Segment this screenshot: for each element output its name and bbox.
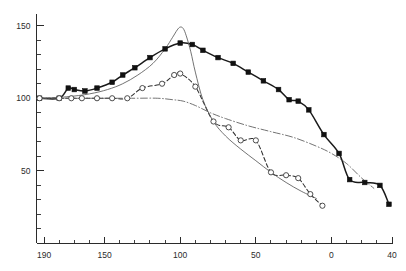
x-tick-label: 100 [173, 250, 187, 260]
data-point-filled-square [362, 180, 367, 185]
data-point-filled-square [72, 87, 77, 92]
series-line-flat-dashdot-baseline-curve [40, 98, 374, 188]
data-point-filled-square [95, 86, 100, 91]
data-point-filled-square [148, 55, 153, 60]
data-point-filled-square [216, 55, 221, 60]
data-point-open-circle [268, 170, 273, 175]
data-point-open-circle [140, 85, 145, 90]
data-point-open-circle [125, 96, 130, 101]
data-point-open-circle [253, 138, 258, 143]
data-point-filled-square [337, 151, 342, 156]
x-tick-label: 150 [97, 250, 111, 260]
data-point-filled-square [231, 61, 236, 66]
series-markers-group [37, 41, 391, 209]
data-point-filled-square [110, 80, 115, 85]
data-point-filled-square [307, 108, 312, 113]
data-point-open-circle [178, 71, 183, 76]
data-point-filled-square [347, 177, 352, 182]
x-axis-tick-labels: 19015010050040 [37, 250, 397, 260]
data-point-open-circle [172, 72, 177, 77]
data-point-open-circle [308, 192, 313, 197]
data-point-filled-square [201, 48, 206, 53]
y-tick-label: 50 [21, 166, 31, 176]
data-point-filled-square [261, 79, 266, 84]
y-tick-label: 150 [16, 21, 30, 31]
data-point-filled-square [287, 97, 292, 102]
chart-container: 50100150 19015010050040 [0, 0, 406, 271]
x-tick-label: 190 [37, 250, 51, 260]
axes-group [37, 14, 393, 244]
data-point-filled-square [133, 65, 138, 70]
x-tick-label: 40 [387, 250, 397, 260]
data-point-filled-square [178, 41, 183, 46]
data-point-open-circle [37, 96, 42, 101]
y-axis-tick-labels: 50100150 [16, 21, 30, 176]
x-axis-ticks [44, 237, 392, 244]
data-point-open-circle [284, 173, 289, 178]
data-point-filled-square [322, 132, 327, 137]
chart-plot: 50100150 19015010050040 [0, 0, 406, 271]
data-point-open-circle [94, 96, 99, 101]
data-point-filled-square [120, 73, 125, 78]
data-point-open-circle [159, 81, 164, 86]
y-axis-ticks [37, 26, 44, 229]
data-point-open-circle [238, 138, 243, 143]
data-point-filled-square [190, 42, 195, 47]
series-lines-group [40, 27, 389, 206]
data-point-open-circle [79, 96, 84, 101]
x-tick-label: 0 [329, 250, 334, 260]
data-point-filled-square [83, 89, 88, 94]
data-point-open-circle [57, 96, 62, 101]
data-point-filled-square [378, 183, 383, 188]
data-point-open-circle [320, 203, 325, 208]
data-point-filled-square [163, 47, 168, 52]
data-point-open-circle [110, 96, 115, 101]
x-tick-label: 50 [251, 250, 261, 260]
data-point-filled-square [276, 87, 281, 92]
data-point-open-circle [69, 96, 74, 101]
series-line-sharp-peak-thin-curve [40, 27, 317, 198]
data-point-open-circle [193, 84, 198, 89]
data-point-filled-square [387, 202, 392, 207]
y-tick-label: 100 [16, 93, 30, 103]
data-point-open-circle [211, 119, 216, 124]
data-point-filled-square [66, 86, 71, 91]
data-point-open-circle [296, 176, 301, 181]
series-line-open-circles-dashed-curve [40, 73, 323, 206]
data-point-filled-square [246, 70, 251, 75]
data-point-filled-square [296, 99, 301, 104]
data-point-open-circle [226, 125, 231, 130]
